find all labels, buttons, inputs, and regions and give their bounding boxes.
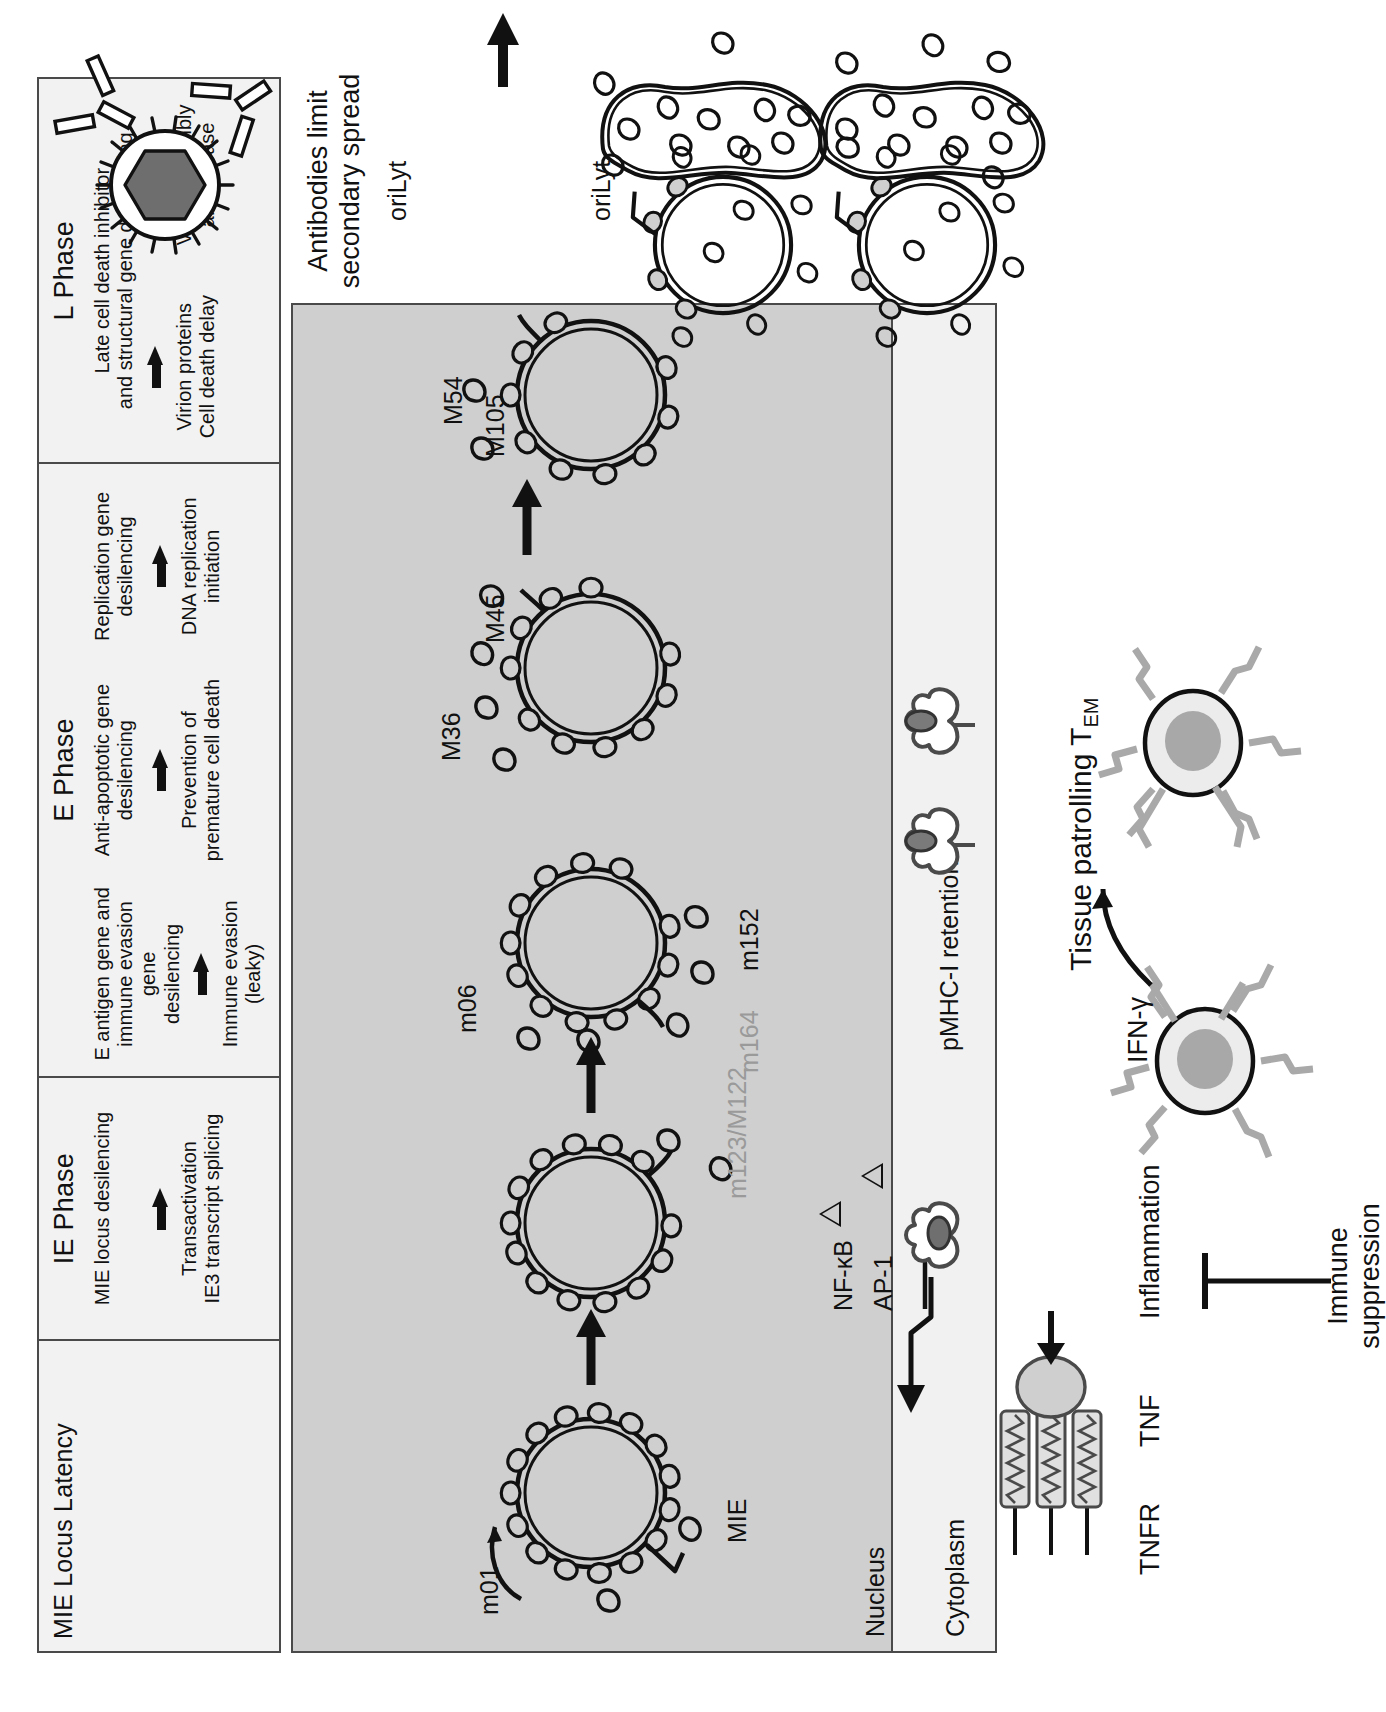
phase-title-e: E Phase xyxy=(49,465,80,1076)
pmhc-icon xyxy=(906,809,975,873)
phase-step-top: E antigen gene and immune evasion gene d… xyxy=(91,878,184,1070)
gene-label-orilyt: oriLyt xyxy=(383,161,412,221)
phase-step-top: Replication gene desilencing xyxy=(91,492,143,641)
phase-step-bottom: Virion proteins Cell death delay xyxy=(173,295,219,438)
phase-arrow xyxy=(192,953,209,995)
phase-title-ie: IE Phase xyxy=(49,1078,80,1340)
tissue-patrolling-label: Tissue patrolling TEM xyxy=(1063,698,1104,971)
tnf-label: TNF xyxy=(1135,1395,1167,1447)
released-virion-and-antibodies xyxy=(43,53,293,303)
phase-step-bottom: Prevention of premature cell death xyxy=(178,679,224,861)
phase-subcolumn: Replication gene desilencing DNA replica… xyxy=(91,465,279,669)
phase-column-e: E Phase E antigen gene and immune evasio… xyxy=(39,463,279,1076)
phase-column-latency: MIE Locus Latency xyxy=(39,1339,279,1651)
phase-subcolumn: Anti-apoptotic gene desilencing Preventi… xyxy=(91,668,279,872)
tissue-patrolling-text: Tissue patrolling T xyxy=(1064,728,1097,971)
tnfr-label: TNFR xyxy=(1135,1503,1167,1575)
phase-step-bottom: Immune evasion (leaky) xyxy=(218,900,264,1047)
phase-arrow xyxy=(152,1188,169,1230)
phase-title-latency: MIE Locus Latency xyxy=(49,1329,78,1651)
phase-step-bottom: DNA replication initiation xyxy=(178,497,224,635)
tnf-ligand-icon xyxy=(1017,1357,1085,1417)
phase-subcolumn: E antigen gene and immune evasion gene d… xyxy=(91,872,279,1076)
antibodies-label: Antibodies limit secondary spread xyxy=(303,36,367,326)
t-cell-patrolling xyxy=(1099,647,1301,847)
phase-arrow xyxy=(152,749,169,791)
phase-column-ie: IE Phase MIE locus desilencing Transacti… xyxy=(39,1076,279,1340)
figure-canvas: MIE Locus Latency IE Phase MIE locus des… xyxy=(23,41,1013,1671)
pmhc-complexes xyxy=(881,631,991,891)
phase-subcolumn: MIE locus desilencing Transactivation IE… xyxy=(91,1078,279,1340)
phase-step-top: Anti-apoptotic gene desilencing xyxy=(91,684,143,856)
peptide-icon xyxy=(928,1217,950,1249)
phase-step-bottom: Transactivation IE3 transcript splicing xyxy=(178,1114,224,1304)
tnf-tnfr-complex xyxy=(981,1305,1131,1565)
phase-arrow xyxy=(147,346,164,388)
ifng-label: IFN-γ xyxy=(1123,997,1155,1063)
pmhc-icon xyxy=(906,689,975,753)
immune-suppression-label: Immune suppression xyxy=(1323,1181,1386,1371)
inhibition-bar-icon xyxy=(1181,1251,1331,1311)
replication-compartment-1 xyxy=(602,83,825,178)
virion-egress xyxy=(403,0,663,91)
phase-arrow xyxy=(152,545,169,587)
tem-subscript: EM xyxy=(1080,698,1102,728)
phase-step-top: MIE locus desilencing xyxy=(91,1112,143,1305)
gene-label-orilyt: oriLyt xyxy=(587,161,616,221)
replication-compartment-2 xyxy=(820,83,1043,178)
phase-table: MIE Locus Latency IE Phase MIE locus des… xyxy=(37,77,281,1653)
virion-icon xyxy=(97,117,233,253)
